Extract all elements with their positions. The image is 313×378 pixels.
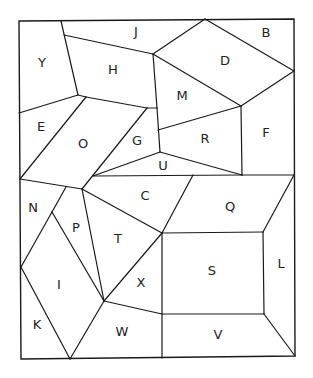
region-label-r: R xyxy=(200,131,209,146)
region-label-m: M xyxy=(176,88,187,103)
border-edge xyxy=(104,301,162,314)
border-edge xyxy=(93,152,160,176)
border-edge xyxy=(52,187,66,212)
border-edge xyxy=(158,106,241,130)
region-label-x: X xyxy=(137,275,146,290)
region-label-y: Y xyxy=(37,55,46,70)
region-labels: YJBHDMEOGRFUCNQPTSLIXKWV xyxy=(28,24,285,342)
region-label-k: K xyxy=(33,317,42,332)
region-label-f: F xyxy=(262,125,269,140)
border-edge xyxy=(241,106,242,175)
border-edge xyxy=(160,152,242,175)
border-edge xyxy=(263,232,264,314)
border-edge xyxy=(153,54,157,108)
border-edge xyxy=(19,95,78,113)
region-label-d: D xyxy=(220,53,230,68)
region-label-t: T xyxy=(113,231,122,246)
border-edge xyxy=(21,212,52,267)
border-edge xyxy=(162,175,193,233)
region-borders xyxy=(19,19,295,359)
map-puzzle-diagram: YJBHDMEOGRFUCNQPTSLIXKWV xyxy=(0,0,313,378)
border-edge xyxy=(21,267,70,359)
border-edge xyxy=(20,179,82,189)
region-label-j: J xyxy=(133,24,138,39)
border-edge xyxy=(70,301,104,359)
region-label-i: I xyxy=(57,277,61,292)
region-label-b: B xyxy=(262,25,271,40)
border-edge xyxy=(264,314,295,356)
region-label-n: N xyxy=(28,200,38,215)
border-edge xyxy=(82,189,104,301)
border-edge xyxy=(153,19,205,54)
border-edge xyxy=(64,35,153,54)
region-label-v: V xyxy=(214,327,223,342)
border-edge xyxy=(86,97,147,108)
region-label-h: H xyxy=(108,62,118,77)
border-edge xyxy=(263,175,294,232)
region-label-u: U xyxy=(158,158,168,173)
border-edge xyxy=(78,95,86,97)
outer-frame xyxy=(19,19,295,359)
region-label-c: C xyxy=(140,188,149,203)
region-label-s: S xyxy=(208,263,216,278)
border-edge xyxy=(82,189,162,233)
border-edge xyxy=(162,232,263,233)
border-edge xyxy=(61,21,78,95)
region-label-l: L xyxy=(277,256,285,271)
region-label-p: P xyxy=(72,220,80,235)
border-edge xyxy=(93,175,242,176)
border-edge xyxy=(104,233,162,301)
border-edge xyxy=(241,71,294,106)
region-label-o: O xyxy=(78,136,88,151)
region-label-q: Q xyxy=(225,199,235,214)
border-edge xyxy=(205,19,294,71)
border-edge xyxy=(82,108,147,189)
region-label-w: W xyxy=(116,324,129,339)
region-label-e: E xyxy=(37,119,45,134)
region-label-g: G xyxy=(132,133,142,148)
